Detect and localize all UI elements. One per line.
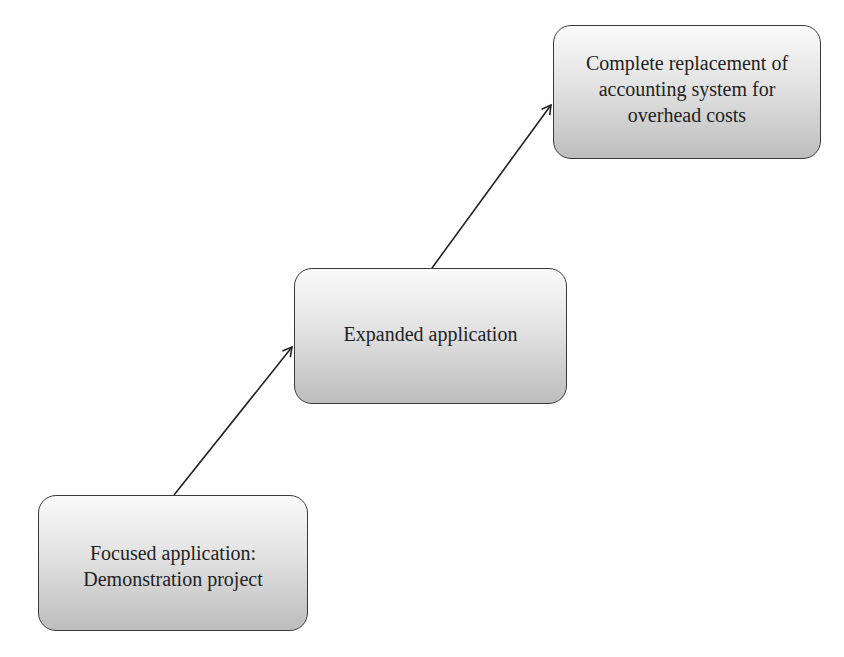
node-complete-replacement: Complete replacement of accounting syste…: [553, 25, 821, 159]
node-label-line: Complete replacement of: [586, 50, 788, 76]
node-label-line: Expanded application: [344, 321, 518, 347]
node-focused-application: Focused application: Demonstration proje…: [38, 495, 308, 631]
node-label: Complete replacement of accounting syste…: [586, 50, 788, 128]
node-label-line: Demonstration project: [83, 566, 262, 592]
node-label-line: accounting system for: [586, 76, 788, 102]
node-label: Expanded application: [344, 321, 518, 347]
node-label-line: overhead costs: [586, 102, 788, 128]
node-expanded-application: Expanded application: [294, 268, 567, 404]
arrow-expanded-to-complete: [432, 105, 551, 268]
node-label: Focused application: Demonstration proje…: [83, 540, 262, 592]
node-label-line: Focused application:: [83, 540, 262, 566]
arrow-focused-to-expanded: [174, 347, 292, 495]
